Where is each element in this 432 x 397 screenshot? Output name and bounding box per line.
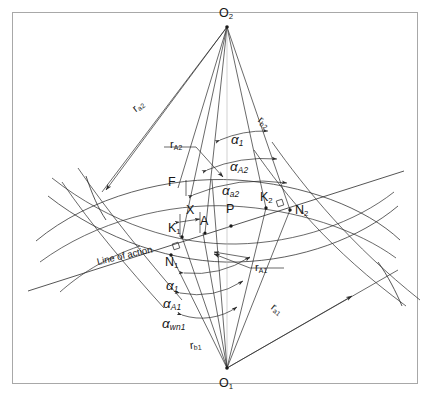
angle-label-alpha-A2: αA2 bbox=[230, 160, 248, 174]
angle-label-alpha-a2: αa2 bbox=[222, 184, 239, 198]
point-label-k1-subscript: 1 bbox=[176, 227, 181, 236]
radius-label-r-A1-subscript: A1 bbox=[259, 267, 268, 274]
point-label-n1: N1 bbox=[165, 256, 179, 269]
diagram-canvas bbox=[0, 0, 432, 397]
angle-label-alpha-1-upper-subscript: 1 bbox=[239, 138, 244, 148]
dot-K1 bbox=[180, 235, 183, 238]
dim-r-a2 bbox=[86, 27, 227, 220]
leader-r-A2 bbox=[164, 147, 223, 177]
angle-label-alpha-a2-glyph: α bbox=[222, 183, 230, 198]
angle-label-alpha-A1: αA1 bbox=[163, 297, 181, 311]
angle-label-alpha-wn1-glyph: α bbox=[162, 316, 170, 331]
angle-label-alpha-1-lower-glyph: α bbox=[166, 278, 174, 293]
angle-label-alpha-1-upper-glyph: α bbox=[231, 132, 239, 147]
angle-label-alpha-A2-glyph: α bbox=[230, 159, 238, 174]
contact-arrows bbox=[214, 252, 250, 258]
point-label-k2: K2 bbox=[260, 191, 273, 204]
point-label-f-glyph: F bbox=[168, 175, 176, 189]
angle-label-alpha-1-upper: α1 bbox=[231, 133, 244, 147]
dot-O2 bbox=[225, 25, 229, 29]
radius-label-r-b1: rb1 bbox=[189, 339, 202, 352]
point-label-p-glyph: P bbox=[226, 202, 234, 216]
point-label-f: F bbox=[168, 176, 176, 189]
center-label-O1-glyph: O bbox=[219, 376, 229, 390]
dot-A bbox=[203, 231, 206, 234]
point-label-k2-subscript: 2 bbox=[268, 196, 273, 205]
point-label-a-glyph: A bbox=[200, 214, 208, 228]
angle-label-alpha-a2-subscript: a2 bbox=[230, 189, 240, 199]
angle-label-alpha-1-lower-subscript: 1 bbox=[174, 284, 179, 294]
point-label-k1: K1 bbox=[168, 222, 181, 235]
radius-lines-O2 bbox=[102, 27, 290, 237]
point-label-x-glyph: X bbox=[186, 203, 194, 217]
center-label-O1-subscript: 1 bbox=[229, 382, 234, 391]
point-label-a: A bbox=[200, 215, 208, 228]
center-label-O2-subscript: 2 bbox=[229, 12, 234, 21]
figure-root: O2O1K1APK2N1N2FXα1αA2αa2α1αA1αwn1ra2rA2r… bbox=[0, 0, 432, 397]
point-label-n2-glyph: N bbox=[295, 203, 304, 217]
point-label-p: P bbox=[226, 203, 234, 216]
radius-label-r-b1-subscript: b1 bbox=[193, 343, 202, 351]
angle-label-alpha-A1-subscript: A1 bbox=[171, 302, 182, 312]
center-label-O2: O2 bbox=[219, 7, 233, 20]
center-label-O2-glyph: O bbox=[219, 6, 229, 20]
dot-K2 bbox=[264, 206, 267, 209]
angle-label-alpha-A2-subscript: A2 bbox=[238, 165, 249, 175]
point-label-x: X bbox=[186, 204, 194, 217]
radius-lines-O1 bbox=[171, 180, 398, 368]
angle-label-alpha-A1-glyph: α bbox=[163, 296, 171, 311]
angle-label-alpha-1-lower: α1 bbox=[166, 279, 179, 293]
center-label-O1: O1 bbox=[219, 377, 233, 390]
dot-P bbox=[229, 224, 232, 227]
point-label-n1-glyph: N bbox=[165, 255, 174, 269]
point-label-n2: N2 bbox=[295, 204, 309, 217]
point-label-n1-subscript: 1 bbox=[174, 261, 179, 270]
radius-label-r-A1: rA1 bbox=[255, 262, 267, 274]
dim-r-a1 bbox=[227, 262, 402, 368]
leader-r-A1 bbox=[214, 254, 284, 268]
dot-N2 bbox=[288, 208, 291, 211]
angle-label-alpha-wn1: αwn1 bbox=[162, 317, 186, 331]
radius-label-r-A2-subscript: A2 bbox=[174, 144, 183, 151]
radius-label-r-A2: rA2 bbox=[170, 139, 182, 151]
angle-label-alpha-wn1-subscript: wn1 bbox=[170, 322, 186, 332]
angle-arcs-lower bbox=[180, 257, 250, 318]
dot-O1 bbox=[225, 366, 229, 370]
point-label-n2-subscript: 2 bbox=[304, 209, 309, 218]
